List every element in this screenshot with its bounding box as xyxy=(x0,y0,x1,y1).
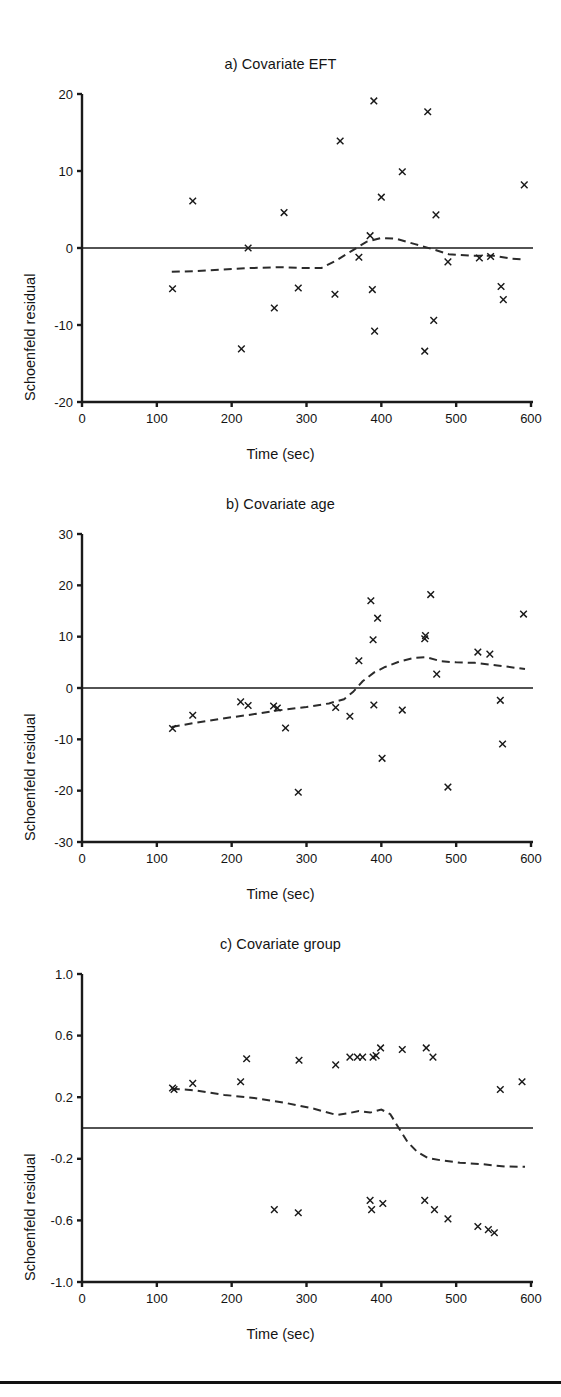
data-points-group xyxy=(169,98,527,355)
data-point-marker xyxy=(421,1197,428,1204)
y-tick-label: 30 xyxy=(59,527,73,542)
data-point-marker xyxy=(498,283,505,290)
data-point-marker xyxy=(295,789,302,796)
smoother-dashed-line xyxy=(172,238,525,272)
y-tick-label: 0 xyxy=(66,241,73,256)
data-point-marker xyxy=(497,697,504,704)
x-tick-label: 600 xyxy=(520,1291,542,1306)
panel-a-xlabel: Time (sec) xyxy=(0,446,561,462)
x-tick-label: 200 xyxy=(221,851,243,866)
y-tick-label: 1.0 xyxy=(55,967,73,982)
panel-covariate-group: c) Covariate group Schoenfeld residual T… xyxy=(0,936,561,1366)
panel-covariate-age: b) Covariate age Schoenfeld residual Tim… xyxy=(0,496,561,926)
y-tick-label: -0.2 xyxy=(51,1151,73,1166)
data-point-marker xyxy=(367,232,374,239)
data-point-marker xyxy=(371,98,378,105)
data-point-marker xyxy=(189,1080,196,1087)
data-point-marker xyxy=(332,291,339,298)
x-tick-label: 400 xyxy=(370,851,392,866)
data-point-marker xyxy=(374,615,381,622)
x-tick-label: 600 xyxy=(520,411,542,426)
panel-c-plot: 1.00.60.2-0.2-0.6-1.00100200300400500600 xyxy=(0,936,561,1316)
x-tick-label: 500 xyxy=(445,851,467,866)
x-tick-label: 500 xyxy=(445,1291,467,1306)
data-point-marker xyxy=(433,671,440,678)
y-tick-label: 10 xyxy=(59,629,73,644)
data-point-marker xyxy=(519,1079,526,1086)
data-point-marker xyxy=(356,657,363,664)
data-point-marker xyxy=(430,1054,437,1061)
data-point-marker xyxy=(271,305,278,312)
y-tick-label: -10 xyxy=(54,318,73,333)
y-tick-label: 20 xyxy=(59,87,73,102)
data-point-marker xyxy=(189,198,196,205)
data-point-marker xyxy=(337,138,344,145)
data-point-marker xyxy=(371,328,378,335)
y-tick-label: -20 xyxy=(54,395,73,410)
x-tick-label: 400 xyxy=(370,1291,392,1306)
data-point-marker xyxy=(431,1206,438,1213)
panel-b-xlabel: Time (sec) xyxy=(0,886,561,902)
x-tick-label: 0 xyxy=(78,1291,85,1306)
data-point-marker xyxy=(189,712,196,719)
data-point-marker xyxy=(424,108,431,115)
x-tick-label: 0 xyxy=(78,411,85,426)
data-point-marker xyxy=(475,1223,482,1230)
data-points-group xyxy=(169,1045,525,1236)
data-point-marker xyxy=(377,1045,384,1052)
data-point-marker xyxy=(380,1200,387,1207)
data-point-marker xyxy=(433,212,440,219)
x-tick-label: 200 xyxy=(221,1291,243,1306)
data-point-marker xyxy=(379,755,386,762)
data-point-marker xyxy=(169,286,176,293)
data-point-marker xyxy=(491,1229,498,1236)
data-point-marker xyxy=(427,591,434,598)
x-tick-label: 300 xyxy=(296,411,318,426)
data-point-marker xyxy=(368,597,375,604)
data-point-marker xyxy=(399,168,406,175)
x-tick-label: 100 xyxy=(146,1291,168,1306)
data-point-marker xyxy=(499,741,506,748)
data-point-marker xyxy=(368,1206,375,1213)
data-point-marker xyxy=(445,259,452,266)
y-tick-label: 0.2 xyxy=(55,1090,73,1105)
data-point-marker xyxy=(445,1216,452,1223)
data-point-marker xyxy=(332,704,339,711)
data-point-marker xyxy=(520,611,527,618)
data-point-marker xyxy=(500,296,507,303)
data-point-marker xyxy=(282,725,289,732)
schoenfeld-residual-figure: a) Covariate EFT Schoenfeld residual Tim… xyxy=(0,0,561,1397)
bottom-rule xyxy=(0,1381,561,1384)
y-tick-label: -20 xyxy=(54,783,73,798)
data-point-marker xyxy=(295,1209,302,1216)
data-point-marker xyxy=(423,1045,430,1052)
panel-a-plot: 20100-10-200100200300400500600 xyxy=(0,56,561,436)
data-point-marker xyxy=(399,1046,406,1053)
panel-c-xlabel: Time (sec) xyxy=(0,1326,561,1342)
data-point-marker xyxy=(347,713,354,720)
panel-covariate-eft: a) Covariate EFT Schoenfeld residual Tim… xyxy=(0,56,561,486)
x-tick-label: 300 xyxy=(296,851,318,866)
x-tick-label: 200 xyxy=(221,411,243,426)
panel-b-plot: 3020100-10-20-300100200300400500600 xyxy=(0,496,561,876)
data-point-marker xyxy=(497,1086,504,1093)
data-point-marker xyxy=(281,209,288,216)
x-tick-label: 400 xyxy=(370,411,392,426)
data-point-marker xyxy=(370,636,377,643)
data-point-marker xyxy=(367,1197,374,1204)
data-point-marker xyxy=(371,702,378,709)
data-point-marker xyxy=(399,707,406,714)
data-point-marker xyxy=(237,1079,244,1086)
x-tick-label: 100 xyxy=(146,411,168,426)
data-point-marker xyxy=(347,1054,354,1061)
data-point-marker xyxy=(243,1055,250,1062)
y-tick-label: 0 xyxy=(66,681,73,696)
data-point-marker xyxy=(356,254,363,261)
data-point-marker xyxy=(296,1057,303,1064)
data-point-marker xyxy=(445,784,452,791)
data-point-marker xyxy=(485,1226,492,1233)
data-point-marker xyxy=(475,649,482,656)
data-point-marker xyxy=(359,1054,366,1061)
x-tick-label: 0 xyxy=(78,851,85,866)
data-point-marker xyxy=(271,1206,278,1213)
